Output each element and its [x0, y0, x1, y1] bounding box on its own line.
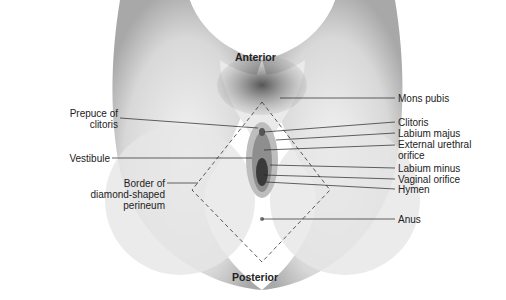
label-labium-majus: Labium majus	[398, 128, 460, 139]
label-labium-minus: Labium minus	[398, 163, 460, 174]
label-anus: Anus	[398, 214, 421, 225]
label-mons-pubis: Mons pubis	[398, 93, 449, 104]
label-line: orifice	[398, 150, 471, 161]
anterior-label: Anterior	[235, 52, 276, 63]
label-line: clitoris	[36, 119, 118, 130]
label-line: perineum	[50, 200, 165, 211]
posterior-label: Posterior	[232, 272, 278, 283]
label-external-urethral-orifice: External urethral orifice	[398, 139, 471, 161]
label-hymen: Hymen	[398, 184, 430, 195]
label-line: External urethral	[398, 139, 471, 150]
label-clitoris: Clitoris	[398, 117, 429, 128]
label-prepuce-of-clitoris: Prepuce of clitoris	[36, 108, 118, 130]
label-line: Border of	[50, 178, 165, 189]
label-perineum-border: Border of diamond-shaped perineum	[50, 178, 165, 211]
label-line: Prepuce of	[36, 108, 118, 119]
label-vestibule: Vestibule	[36, 153, 110, 164]
label-line: diamond-shaped	[50, 189, 165, 200]
